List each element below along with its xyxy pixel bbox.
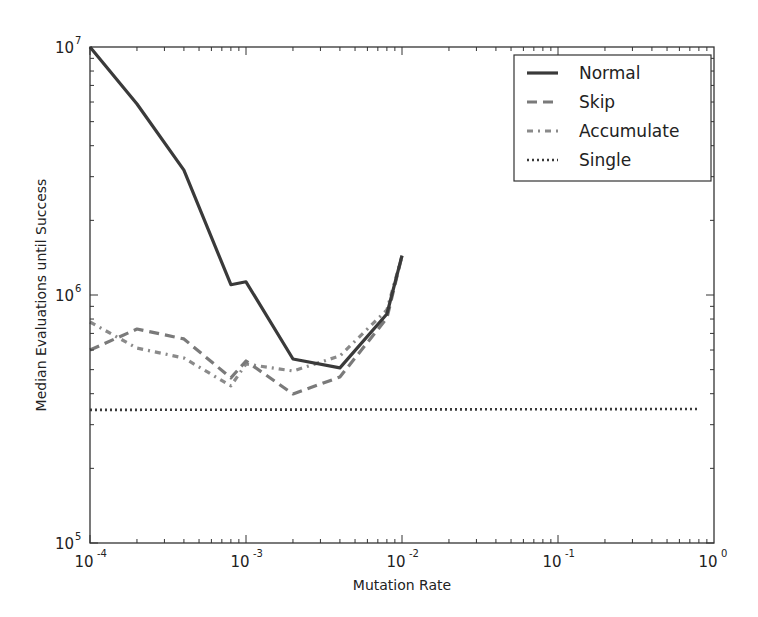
y-tick-label: 10 bbox=[55, 39, 74, 57]
chart: 10-410-310-210-1100105106107 Mutation Ra… bbox=[0, 0, 758, 617]
legend-label-skip: Skip bbox=[579, 92, 615, 112]
y-tick-exponent: 6 bbox=[75, 283, 81, 294]
x-tick-label: 10 bbox=[386, 553, 405, 571]
x-tick-label: 10 bbox=[74, 553, 93, 571]
x-tick-label: 10 bbox=[542, 553, 561, 571]
x-tick-exponent: -1 bbox=[565, 548, 575, 559]
y-tick-exponent: 5 bbox=[75, 531, 81, 542]
y-axis-label: Median Evaluations until Success bbox=[33, 179, 49, 412]
legend: NormalSkipAccumulateSingle bbox=[514, 55, 711, 181]
series-line-normal bbox=[90, 47, 402, 368]
legend-label-normal: Normal bbox=[579, 63, 641, 83]
x-tick-label: 10 bbox=[698, 553, 717, 571]
series-line-skip bbox=[90, 256, 402, 394]
y-tick-label: 10 bbox=[55, 535, 74, 553]
y-tick-exponent: 7 bbox=[75, 35, 81, 46]
series-line-accumulate bbox=[90, 256, 402, 386]
x-tick-exponent: -2 bbox=[409, 548, 419, 559]
legend-label-single: Single bbox=[579, 150, 631, 170]
x-tick-exponent: -3 bbox=[253, 548, 263, 559]
legend-label-accumulate: Accumulate bbox=[579, 121, 679, 141]
line-chart-plot: 10-410-310-210-1100105106107 Mutation Ra… bbox=[0, 0, 758, 617]
x-tick-exponent: -4 bbox=[97, 548, 107, 559]
x-axis-label: Mutation Rate bbox=[353, 577, 451, 593]
x-tick-label: 10 bbox=[230, 553, 249, 571]
x-tick-exponent: 0 bbox=[721, 548, 727, 559]
series-line-single bbox=[90, 409, 699, 410]
y-tick-label: 10 bbox=[55, 287, 74, 305]
